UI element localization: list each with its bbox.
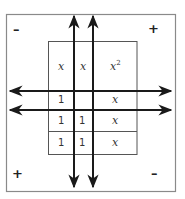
tile-x-squared-label: x2 xyxy=(110,59,121,73)
tile-x-label: x xyxy=(112,93,119,106)
tile-unit-label: 1 xyxy=(79,115,85,126)
tile-x-label: x xyxy=(80,60,87,73)
tile-unit-label: 1 xyxy=(79,137,85,148)
tile-x-label: x xyxy=(58,60,65,73)
quadrant-sign-top-right: + xyxy=(148,21,159,36)
tile-unit-label: 1 xyxy=(58,115,64,126)
algebra-tiles-diagram: – + + – x x x2 1 x 1 1 x 1 1 x xyxy=(0,0,185,199)
tile-unit-label: 1 xyxy=(58,94,64,105)
quadrant-sign-top-left: – xyxy=(13,22,20,37)
quadrant-sign-bottom-right: – xyxy=(151,166,158,181)
tile-x-label: x xyxy=(112,114,119,127)
tile-x-label: x xyxy=(112,136,119,149)
tile-unit-label: 1 xyxy=(58,137,64,148)
tile-x-squared-exponent: 2 xyxy=(116,59,120,67)
quadrant-sign-bottom-left: + xyxy=(12,166,23,181)
